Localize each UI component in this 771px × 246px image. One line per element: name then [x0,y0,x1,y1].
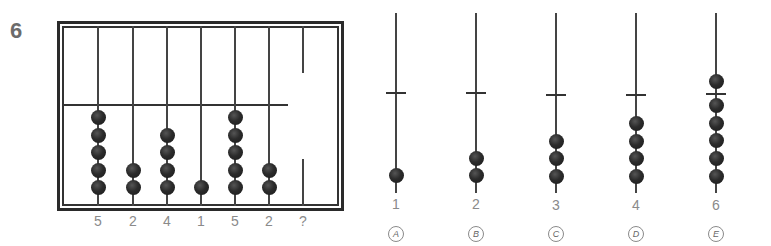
option-d-value: 4 [632,197,640,213]
option-c-rod [555,13,557,193]
bead [160,145,175,160]
option-e-crossbar [706,93,726,95]
abacus-rod-unknown-bottom [302,159,304,206]
bead [629,134,644,149]
abacus-label-2: 2 [129,213,137,229]
bead [160,180,175,195]
bead [91,180,106,195]
option-d-rod [635,13,637,193]
bead [91,163,106,178]
abacus-label-3: 4 [163,213,171,229]
bead [709,74,724,89]
option-b-value: 2 [472,196,480,212]
option-b-crossbar [466,92,486,94]
option-b-rod [475,13,477,193]
bead [709,116,724,131]
abacus-rod-4 [200,26,202,206]
bead [549,151,564,166]
bead [469,168,484,183]
bead [709,98,724,113]
option-a-letter[interactable]: A [388,226,404,242]
bead [389,168,404,183]
option-c-crossbar [546,94,566,96]
abacus-label-4: 1 [197,213,205,229]
bead [91,110,106,125]
abacus-label-5: 5 [231,213,239,229]
abacus-label-6: 2 [265,213,273,229]
bead [228,163,243,178]
abacus-rod-unknown-top [302,26,304,73]
bead [629,169,644,184]
bead [194,180,209,195]
option-a-value: 1 [392,196,400,212]
option-d-letter[interactable]: D [628,226,644,242]
bead [549,169,564,184]
bead [549,134,564,149]
abacus-rod-2 [132,26,134,206]
bead [262,163,277,178]
option-a-crossbar [386,92,406,94]
bead [228,110,243,125]
option-d-crossbar [626,94,646,96]
bead [228,128,243,143]
abacus-label-1: 5 [94,213,102,229]
option-b-letter[interactable]: B [468,226,484,242]
option-e-letter[interactable]: E [708,226,724,242]
bead [709,151,724,166]
option-a-rod [395,13,397,193]
bead [160,163,175,178]
bead [629,116,644,131]
abacus-label-unknown: ? [299,213,307,229]
bead [469,151,484,166]
option-e-value: 6 [712,197,720,213]
option-c-letter[interactable]: C [548,226,564,242]
bead [629,151,644,166]
abacus-rod-3 [166,26,168,206]
bead [262,180,277,195]
bead [709,133,724,148]
bead [160,128,175,143]
abacus-rod-6 [268,26,270,206]
abacus-crossbar [62,104,288,106]
bead [126,163,141,178]
bead [91,145,106,160]
bead [228,145,243,160]
bead [126,180,141,195]
bead [228,180,243,195]
bead [709,169,724,184]
option-c-value: 3 [552,197,560,213]
question-number: 6 [10,18,22,44]
bead [91,128,106,143]
